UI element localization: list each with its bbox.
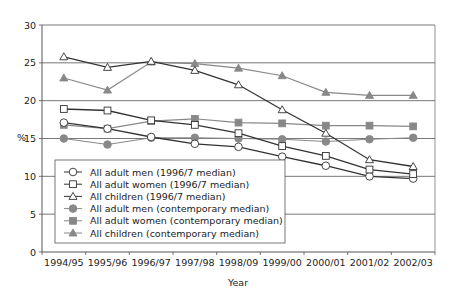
x-axis-ticks: 1994/951995/961996/971997/981998/091999/… [42, 252, 435, 268]
legend-label: All adult women (1996/7 median) [90, 179, 249, 190]
square-marker [235, 130, 242, 137]
legend-item: All adult men (1996/7 median) [64, 167, 236, 178]
legend-item: All adult women (1996/7 median) [64, 179, 249, 190]
legend-item: All adult men (contemporary median) [64, 203, 269, 214]
circle-marker [69, 205, 77, 213]
square-marker [279, 143, 286, 150]
legend-label: All children (1996/7 median) [90, 191, 225, 202]
y-axis-title: % [17, 132, 26, 143]
circle-marker [104, 141, 112, 149]
legend-label: All adult men (1996/7 median) [90, 167, 236, 178]
square-marker [410, 171, 417, 178]
triangle-marker [322, 129, 330, 136]
triangle-marker [366, 156, 374, 163]
triangle-marker [147, 57, 155, 64]
x-tick-label: 2001/02 [350, 257, 389, 268]
x-tick-label: 1996/97 [131, 257, 170, 268]
square-marker [191, 121, 198, 128]
x-tick-label: 2002/03 [393, 257, 432, 268]
y-tick-label: 25 [24, 57, 36, 68]
square-marker [410, 123, 417, 130]
legend: All adult men (1996/7 median)All adult w… [55, 160, 285, 243]
square-marker [322, 122, 329, 129]
y-tick-label: 0 [30, 247, 36, 258]
square-marker [366, 122, 373, 129]
circle-marker [322, 138, 330, 146]
x-tick-label: 1994/95 [44, 257, 83, 268]
circle-marker [322, 162, 330, 170]
circle-marker [366, 173, 374, 181]
triangle-marker [60, 74, 68, 81]
circle-marker [147, 133, 155, 141]
square-marker [104, 107, 111, 114]
x-tick-label: 1998/09 [219, 257, 258, 268]
circle-marker [69, 168, 77, 176]
legend-item: All adult women (contemporary median) [64, 215, 283, 226]
y-tick-label: 10 [24, 171, 36, 182]
square-marker [148, 117, 155, 124]
x-axis-title: Year [227, 277, 248, 288]
y-tick-label: 30 [24, 20, 36, 31]
square-marker [322, 153, 329, 160]
x-tick-label: 1995/96 [88, 257, 127, 268]
circle-marker [366, 135, 374, 143]
circle-marker [60, 135, 68, 143]
x-tick-label: 1999/00 [262, 257, 301, 268]
x-tick-label: 2000/01 [306, 257, 345, 268]
circle-marker [60, 119, 68, 127]
circle-marker [235, 143, 243, 151]
y-axis-ticks: 051015202530 [24, 20, 42, 258]
legend-label: All adult women (contemporary median) [90, 215, 283, 226]
circle-marker [191, 140, 199, 148]
square-marker [366, 166, 373, 173]
square-marker [60, 106, 67, 113]
square-marker [279, 120, 286, 127]
triangle-marker [60, 53, 68, 60]
square-marker [70, 181, 77, 188]
legend-label: All children (contemporary median) [90, 228, 259, 239]
circle-marker [409, 134, 417, 142]
circle-marker [104, 125, 112, 133]
square-marker [70, 217, 77, 224]
series-markers-5 [60, 58, 417, 98]
circle-marker [278, 135, 286, 143]
legend-item: All children (contemporary median) [64, 228, 259, 239]
circle-marker [278, 153, 286, 161]
y-tick-label: 5 [30, 209, 36, 220]
legend-label: All adult men (contemporary median) [90, 203, 269, 214]
y-tick-label: 20 [24, 95, 36, 106]
line-chart: 051015202530 1994/951995/961996/971997/9… [0, 0, 453, 296]
x-tick-label: 1997/98 [175, 257, 214, 268]
square-marker [235, 119, 242, 126]
triangle-marker [278, 106, 286, 113]
